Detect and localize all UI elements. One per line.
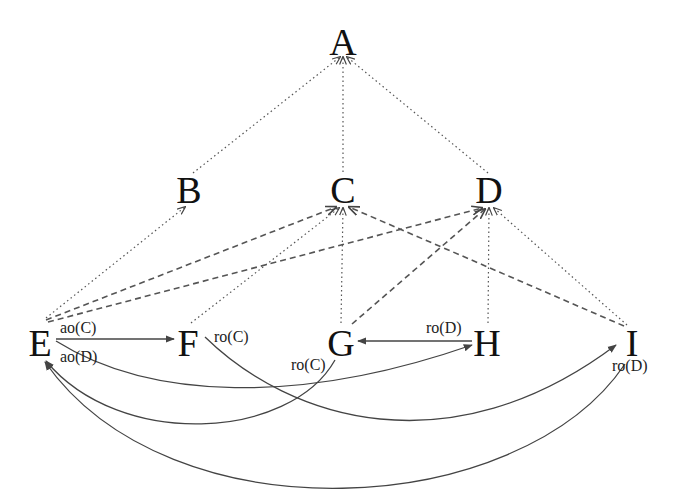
label-g-e: ro(C)	[291, 356, 326, 374]
graph-canvas: ao(C) ao(D) ro(C) ro(D) ro(C) ro(D) A B …	[0, 0, 674, 504]
edge-i-to-e	[45, 362, 625, 488]
edge-e-to-h	[56, 341, 472, 388]
node-h: H	[473, 322, 500, 364]
label-e-f: ao(C)	[60, 319, 96, 337]
label-h-g: ro(D)	[426, 319, 462, 337]
nodes: A B C D E F G H I	[28, 21, 638, 364]
edge-i-to-c	[349, 207, 624, 326]
label-f-i: ro(C)	[214, 328, 249, 346]
node-c: C	[330, 169, 355, 211]
node-b: B	[176, 169, 201, 211]
dashed-edges	[46, 207, 624, 326]
edge-e-to-c	[46, 207, 336, 320]
edge-d-to-a	[347, 57, 488, 173]
edge-g-to-c	[341, 208, 343, 323]
node-i: I	[626, 322, 639, 364]
edge-b-to-a	[193, 57, 340, 173]
label-e-h: ao(D)	[60, 348, 97, 366]
edge-f-to-i	[205, 337, 616, 420]
node-d: D	[475, 169, 502, 211]
node-f: F	[177, 322, 198, 364]
node-a: A	[329, 21, 357, 63]
edge-i-to-d	[494, 208, 627, 325]
edge-h-to-d	[488, 208, 489, 323]
edge-e-to-b	[46, 207, 185, 318]
edge-g-to-d	[352, 209, 485, 324]
node-e: E	[28, 322, 51, 364]
node-g: G	[327, 322, 354, 364]
